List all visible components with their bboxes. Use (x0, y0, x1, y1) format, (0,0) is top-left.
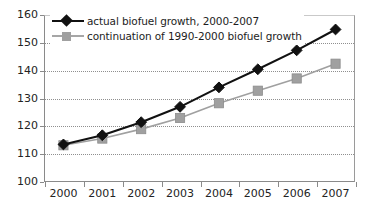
chart-legend: actual biofuel growth, 2000-2007 continu… (50, 12, 304, 45)
biofuel-growth-line-chart: 100110120130140150160 200020012002200320… (0, 0, 366, 207)
legend-square-marker-icon (52, 29, 84, 43)
data-point-actual (252, 64, 263, 75)
legend-item-actual: actual biofuel growth, 2000-2007 (52, 13, 302, 28)
data-point-continuation (331, 59, 340, 68)
legend-label-continuation: continuation of 1990-2000 biofuel growth (84, 29, 302, 43)
data-point-continuation (175, 113, 184, 122)
data-point-actual (175, 101, 186, 112)
data-point-continuation (292, 74, 301, 83)
legend-diamond-marker-icon (52, 14, 84, 28)
data-point-actual (330, 24, 341, 35)
legend-item-continuation: continuation of 1990-2000 biofuel growth (52, 28, 302, 43)
data-point-actual (214, 82, 225, 93)
data-point-continuation (214, 99, 223, 108)
data-point-continuation (253, 86, 262, 95)
data-point-actual (291, 45, 302, 56)
legend-label-actual: actual biofuel growth, 2000-2007 (84, 14, 259, 28)
